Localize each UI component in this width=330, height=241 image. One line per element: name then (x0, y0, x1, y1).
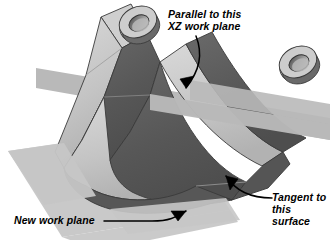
annotation-new-work-plane: New work plane (14, 214, 95, 226)
technical-illustration: Parallel to this XZ work plane Tangent t… (0, 0, 330, 241)
annotation-parallel-xz-plane: Parallel to this XZ work plane (168, 8, 241, 32)
annotation-tangent-surface: Tangent to this surface (272, 191, 326, 228)
